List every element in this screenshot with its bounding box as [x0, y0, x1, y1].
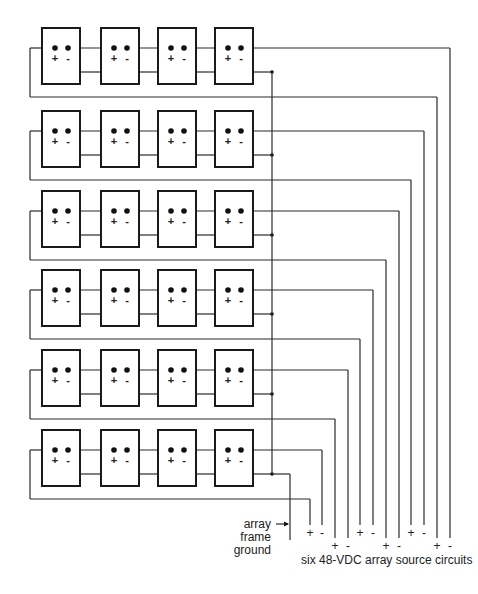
positive-terminal-dot	[111, 128, 117, 134]
positive-terminal-dot	[168, 447, 174, 453]
negative-label: -	[66, 454, 70, 466]
positive-terminal-dot	[52, 287, 58, 293]
negative-terminal-dot	[181, 367, 187, 373]
negative-terminal-dot	[124, 447, 130, 453]
output-negative-label: -	[371, 526, 375, 540]
negative-label: -	[182, 374, 186, 386]
positive-label: +	[168, 135, 174, 147]
output-negative-label: -	[320, 526, 324, 540]
positive-terminal-dot	[225, 128, 231, 134]
positive-label: +	[168, 52, 174, 64]
negative-label: -	[182, 294, 186, 306]
pv-module	[215, 191, 253, 247]
output-positive-label: +	[382, 539, 389, 553]
pv-module	[215, 430, 253, 486]
pv-module	[42, 430, 80, 486]
positive-terminal-dot	[225, 367, 231, 373]
pv-module	[42, 270, 80, 326]
negative-terminal-dot	[181, 45, 187, 51]
pv-module	[158, 111, 196, 167]
positive-label: +	[168, 454, 174, 466]
positive-terminal-dot	[168, 367, 174, 373]
output-positive-label: +	[407, 526, 414, 540]
ground-label-ground: ground	[234, 543, 271, 557]
positive-label: +	[111, 454, 117, 466]
positive-label: +	[52, 135, 58, 147]
positive-terminal-dot	[168, 287, 174, 293]
positive-terminal-dot	[168, 208, 174, 214]
pv-module	[215, 111, 253, 167]
negative-terminal-dot	[181, 128, 187, 134]
negative-terminal-dot	[65, 208, 71, 214]
positive-label: +	[225, 454, 231, 466]
positive-label: +	[52, 52, 58, 64]
pv-module	[158, 28, 196, 84]
negative-terminal-dot	[181, 287, 187, 293]
negative-terminal-dot	[124, 208, 130, 214]
negative-terminal-dot	[238, 447, 244, 453]
positive-terminal-dot	[111, 208, 117, 214]
positive-terminal-dot	[52, 367, 58, 373]
positive-label: +	[225, 374, 231, 386]
positive-terminal-dot	[225, 208, 231, 214]
pv-module	[158, 270, 196, 326]
negative-label: -	[182, 454, 186, 466]
output-positive-label: +	[356, 526, 363, 540]
negative-label: -	[66, 294, 70, 306]
positive-label: +	[168, 215, 174, 227]
positive-terminal-dot	[52, 128, 58, 134]
positive-label: +	[52, 374, 58, 386]
negative-label: -	[125, 294, 129, 306]
positive-terminal-dot	[168, 45, 174, 51]
pv-module	[215, 350, 253, 406]
ground-label-array: array	[244, 517, 271, 531]
negative-label: -	[125, 135, 129, 147]
negative-label: -	[239, 374, 243, 386]
output-positive-label: +	[306, 526, 313, 540]
negative-terminal-dot	[65, 367, 71, 373]
negative-label: -	[239, 454, 243, 466]
pv-module	[101, 350, 139, 406]
negative-terminal-dot	[238, 367, 244, 373]
ground-label-frame: frame	[240, 530, 271, 544]
positive-label: +	[225, 52, 231, 64]
positive-terminal-dot	[52, 447, 58, 453]
positive-label: +	[111, 215, 117, 227]
negative-terminal-dot	[181, 208, 187, 214]
negative-terminal-dot	[65, 128, 71, 134]
ground-arrow-head	[284, 522, 289, 527]
negative-terminal-dot	[124, 367, 130, 373]
positive-terminal-dot	[225, 447, 231, 453]
negative-label: -	[125, 454, 129, 466]
negative-label: -	[66, 135, 70, 147]
negative-terminal-dot	[238, 208, 244, 214]
negative-label: -	[182, 52, 186, 64]
positive-label: +	[111, 374, 117, 386]
positive-label: +	[225, 135, 231, 147]
negative-label: -	[239, 294, 243, 306]
positive-label: +	[168, 294, 174, 306]
pv-module	[158, 350, 196, 406]
negative-terminal-dot	[124, 45, 130, 51]
negative-terminal-dot	[65, 447, 71, 453]
positive-label: +	[111, 135, 117, 147]
positive-label: +	[225, 294, 231, 306]
wiring-diagram: +-+-+-+-+-+-+-+-+-+-+-+-+-+-+-+-+-+-+-+-…	[0, 0, 478, 594]
positive-label: +	[52, 454, 58, 466]
pv-module	[215, 270, 253, 326]
pv-module	[42, 350, 80, 406]
output-negative-label: -	[448, 539, 452, 553]
pv-module	[42, 191, 80, 247]
pv-module	[101, 430, 139, 486]
positive-label: +	[52, 294, 58, 306]
negative-terminal-dot	[65, 45, 71, 51]
positive-terminal-dot	[52, 45, 58, 51]
output-negative-label: -	[346, 539, 350, 553]
pv-module	[158, 191, 196, 247]
pv-module	[101, 191, 139, 247]
pv-module	[101, 28, 139, 84]
positive-terminal-dot	[111, 367, 117, 373]
negative-label: -	[239, 215, 243, 227]
negative-label: -	[125, 215, 129, 227]
negative-terminal-dot	[124, 128, 130, 134]
